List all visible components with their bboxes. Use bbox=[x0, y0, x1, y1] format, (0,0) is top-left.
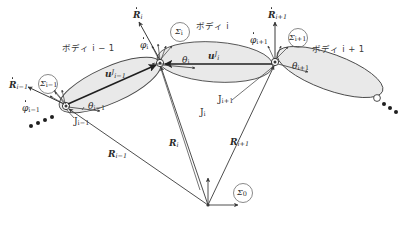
joint-i-plus-1-node bbox=[271, 58, 278, 65]
body-i-minus-1-label: ボディ i − 1 bbox=[62, 44, 115, 53]
sigma-0-label: Σ0 bbox=[237, 189, 247, 198]
R-i-plus-1-label: Ri+1 bbox=[230, 138, 249, 148]
joint-i-node bbox=[156, 59, 163, 66]
Rdot-i-minus-1-label: Ri−1 bbox=[9, 81, 28, 91]
phidot-i-plus-1-label: φi+1 bbox=[250, 36, 268, 46]
u-J-i-label: uJi bbox=[208, 51, 219, 62]
joint-i-label: Ji bbox=[200, 108, 206, 118]
theta-i-minus-1-label: θi−1 bbox=[88, 102, 105, 112]
R-i-minus-1-arrow bbox=[69, 109, 208, 205]
R-i-arrow bbox=[161, 67, 208, 205]
theta-i-label: θi bbox=[182, 56, 190, 66]
phidot-i-label: φi bbox=[140, 41, 148, 51]
theta-i-plus-1-label: θi+1 bbox=[292, 62, 309, 72]
R-i-minus-1-label: Ri−1 bbox=[108, 150, 127, 160]
diagram-canvas: ボディ i − 1 ボディ i ボディ i + 1 Σi−1 Σi Σi+1 Σ… bbox=[0, 0, 403, 226]
body-i-label: ボディ i bbox=[196, 22, 229, 31]
body-i-plus-1-label: ボディ i + 1 bbox=[312, 45, 365, 54]
Rdot-i-plus-1-label: Ri+1 bbox=[268, 11, 287, 21]
R-i-plus-1-arrow bbox=[208, 66, 274, 205]
phidot-i-minus-1-label: φi−1 bbox=[22, 104, 40, 114]
chain-end-right-circle bbox=[374, 95, 381, 102]
sigma-i-label: Σi bbox=[175, 28, 183, 37]
sigma-i-minus-1-label: Σi−1 bbox=[40, 80, 57, 89]
sigma-i-plus-1-label: Σi+1 bbox=[289, 34, 306, 43]
joint-i-minus-1-label: Ji−1 bbox=[74, 117, 89, 127]
u-J-i-minus-1-label: uJi−1 bbox=[105, 69, 126, 80]
Rdot-i-label: Ri bbox=[133, 11, 143, 21]
R-i-label: Ri bbox=[169, 139, 179, 149]
continuation-dots-left bbox=[29, 115, 54, 128]
joint-i-leader bbox=[160, 66, 200, 190]
joint-i-plus-1-label: Ji+1 bbox=[218, 95, 233, 105]
continuation-dots-right bbox=[382, 102, 398, 114]
